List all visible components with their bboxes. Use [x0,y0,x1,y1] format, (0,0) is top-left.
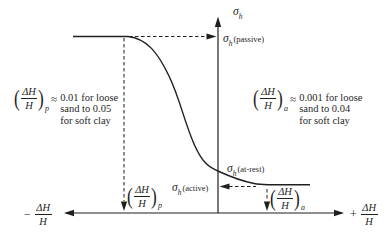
fraction-denominator: H [365,215,373,227]
fraction-denominator: H [25,99,33,111]
annotation-subscript: p [45,104,49,113]
passive-tilt-marker: ( ΔH H ) p [126,184,162,210]
fraction-denominator: H [281,199,289,211]
annotation-line: for soft clay [60,115,118,126]
sigma-subscript: h [239,12,243,21]
at-rest-pressure-label: σh(at-rest) [227,158,264,176]
marker-subscript: a [301,204,305,213]
passive-level-arrow [207,34,217,40]
sigma-subscript: h [229,39,233,48]
annotation-line: sand to 0.05 [60,103,118,114]
passive-tilt-annotation: ( ΔH H ) p ≈ 0.01 for loose sand to 0.05… [13,86,118,126]
fraction-numerator: ΔH [361,202,378,215]
annotation-line: for soft clay [299,115,362,126]
sigma-subscript: h [233,169,237,178]
close-paren: ) [38,87,44,111]
pressure-state-text: (active) [182,183,208,193]
close-paren: ) [294,187,300,211]
open-paren: ( [253,87,259,111]
active-level-arrow [220,184,230,190]
minus-sign: − [24,208,31,221]
y-axis-up-arrow [215,17,221,28]
pressure-state-text: (at-rest) [237,164,264,174]
annotation-line: sand to 0.04 [299,103,362,114]
fraction-denominator: H [264,99,272,111]
passive-pressure-label: σh(passive) [223,28,264,46]
approx-sign: ≈ [290,93,296,105]
y-axis-label: σh [233,1,242,19]
marker-subscript: p [158,202,162,211]
plus-sign: + [350,208,357,221]
fraction-numerator: ΔH [134,184,151,197]
open-paren: ( [270,187,276,211]
fraction-numerator: ΔH [260,86,277,99]
pressure-state-text: (passive) [233,34,264,44]
x-axis-left-label: − ΔH H [24,202,52,228]
fraction-numerator: ΔH [21,86,38,99]
fraction-denominator: H [39,215,47,227]
annotation-subscript: a [284,104,288,113]
fraction-numerator: ΔH [277,186,294,199]
x-axis-left-arrow [64,210,74,216]
active-tilt-marker: ( ΔH H ) a [269,186,305,212]
fraction-numerator: ΔH [35,202,52,215]
annotation-line: 0.01 for loose [60,92,118,103]
sigma-subscript: h [178,188,182,197]
x-axis-right-arrow [334,210,344,216]
open-paren: ( [127,185,133,209]
close-paren: ) [151,185,157,209]
x-axis-right-label: + ΔH H [350,202,378,228]
active-tilt-annotation: ( ΔH H ) a ≈ 0.001 for loose sand to 0.0… [252,86,362,126]
close-paren: ) [277,87,283,111]
approx-sign: ≈ [51,93,57,105]
open-paren: ( [14,87,20,111]
fraction-denominator: H [138,197,146,209]
active-pressure-label: σh(active) [172,177,208,195]
annotation-line: 0.001 for loose [299,92,362,103]
earth-pressure-wall-tilt-figure: σh σh(passive) σh(at-rest) σh(active) ( … [0,0,392,240]
